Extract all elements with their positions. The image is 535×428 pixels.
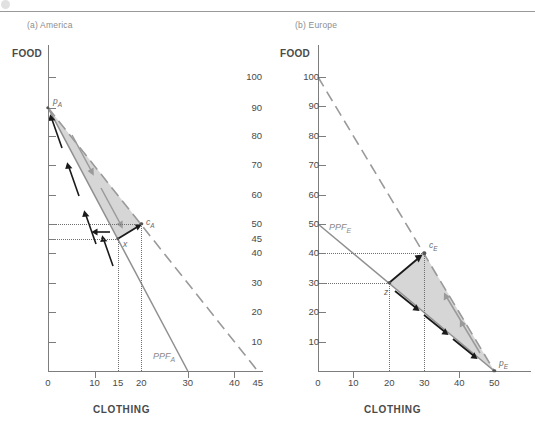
xlabel-europe-10: 10 (348, 377, 359, 388)
ylabel-europe-70: 70 (278, 159, 324, 170)
ytick-america-30 (48, 283, 56, 284)
ylabel-europe-60: 60 (278, 189, 324, 200)
ylabel-america-50: 50 (221, 218, 267, 229)
panel-america: (a) America FOOD CLOTHING (0, 0, 267, 428)
ylabel-america-80: 80 (221, 130, 267, 141)
ylabel-america-60: 60 (221, 189, 267, 200)
point-label-ce: cE (429, 240, 438, 252)
ppf-line-europe (318, 224, 494, 371)
x-axis-europe (318, 371, 531, 372)
ylabel-america-20: 20 (221, 306, 267, 317)
ylabel-europe-10: 10 (278, 336, 324, 347)
ylabel-europe-80: 80 (278, 130, 324, 141)
xlabel-europe-20: 20 (384, 377, 395, 388)
ytick-america-20 (48, 312, 56, 313)
ylabel-america-45: 45 (221, 233, 267, 244)
america-graphics (0, 0, 267, 428)
panel-europe: (b) Europe FOOD CLOTHING (268, 0, 535, 428)
xlabel-america-20: 20 (136, 377, 147, 388)
ylabel-america-70: 70 (221, 159, 267, 170)
europe-graphics (268, 0, 535, 428)
guide-h-food-50-america (48, 224, 141, 225)
ylabel-america-90: 90 (221, 102, 267, 113)
guide-h-food-30-europe (318, 283, 389, 284)
ylabel-america-40: 40 (221, 247, 267, 258)
y-axis-europe (318, 45, 319, 371)
ylabel-america-10: 10 (221, 336, 267, 347)
ytick-america-40 (48, 253, 56, 254)
ytick-america-45 (48, 239, 56, 240)
ylabel-europe-20: 20 (278, 306, 324, 317)
xlabel-europe-50: 50 (489, 377, 500, 388)
ytick-america-60 (48, 195, 56, 196)
ylabel-america-100: 100 (221, 71, 267, 82)
xlabel-europe-40: 40 (454, 377, 465, 388)
shade-region-america (48, 108, 141, 239)
xlabel-america-0: 0 (45, 377, 50, 388)
ylabel-europe-30: 30 (278, 277, 324, 288)
ytick-america-10 (48, 342, 56, 343)
ytick-america-70 (48, 165, 56, 166)
curve-label-ppf-america: PPFA (153, 351, 175, 363)
ylabel-america-30: 30 (221, 277, 267, 288)
guide-h-food-45-america (48, 239, 118, 240)
ylabel-europe-100: 100 (278, 71, 324, 82)
xlabel-america-40: 40 (229, 377, 240, 388)
ytick-europe-0 (318, 371, 326, 372)
guide-v-clothing-20-europe (389, 283, 390, 371)
plot-area-america: 100 90 80 70 60 50 45 40 30 20 10 0 10 1… (0, 0, 267, 428)
xlabel-america-30: 30 (183, 377, 194, 388)
xlabel-europe-0: 0 (315, 377, 320, 388)
guide-v-clothing-15-america (118, 239, 119, 371)
guide-v-clothing-20-america (141, 224, 142, 371)
arrow-left-america (92, 229, 111, 236)
guide-h-food-40-europe (318, 253, 424, 254)
point-label-x: x (123, 239, 127, 249)
xlabel-america-10: 10 (89, 377, 100, 388)
guide-v-clothing-30-europe (424, 253, 425, 371)
ylabel-europe-40: 40 (278, 247, 324, 258)
ytick-america-100 (48, 77, 56, 78)
ylabel-europe-90: 90 (278, 100, 324, 111)
point-label-pe: pE (499, 358, 508, 370)
ytick-america-50 (48, 224, 56, 225)
shade-region-europe (389, 253, 494, 371)
curve-label-ppf-europe: PPFE (329, 222, 351, 234)
xlabel-europe-30: 30 (419, 377, 430, 388)
xlabel-america-15: 15 (113, 377, 124, 388)
y-axis-america (48, 45, 49, 371)
plot-area-europe: 100 90 80 70 60 50 40 30 20 10 0 10 20 3… (268, 0, 535, 428)
x-axis-america (48, 371, 263, 372)
point-label-z: z (384, 287, 388, 297)
ylabel-europe-50: 50 (278, 218, 324, 229)
ytick-america-80 (48, 136, 56, 137)
point-label-pa: pA (53, 96, 62, 108)
point-label-ca: cA (146, 217, 155, 229)
ytick-america-0 (48, 371, 56, 372)
xlabel-america-45: 45 (252, 377, 263, 388)
